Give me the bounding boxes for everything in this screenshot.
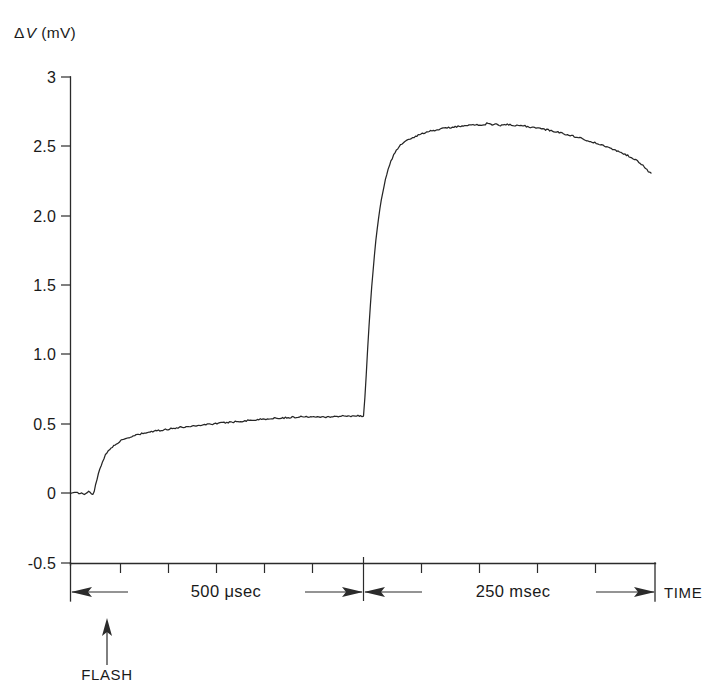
y-axis-label-units: (mV) (41, 24, 76, 41)
y-tick-label-0: 3 (47, 69, 56, 86)
y-tick-label-5: 0.5 (33, 416, 56, 433)
span-label-slow: 250 msec (476, 582, 551, 600)
y-tick-label-6: 0 (47, 485, 56, 502)
y-tick-label-4: 1.0 (33, 346, 56, 363)
trace-fast-phase (71, 415, 364, 494)
y-tick-label-3: 1.5 (33, 277, 56, 294)
figure-container: ΔV(mV) 3 2.5 2.0 1.5 1.0 0.5 0 -0.5 (0, 0, 721, 685)
y-tick-label-1: 2.5 (33, 138, 56, 155)
y-axis-tick-labels: 3 2.5 2.0 1.5 1.0 0.5 0 -0.5 (28, 69, 56, 572)
y-axis-label-delta: Δ (14, 24, 25, 41)
span-label-fast: 500 μsec (191, 582, 262, 600)
y-tick-label-7: -0.5 (28, 555, 56, 572)
x-axis-ticks-slow (422, 563, 596, 573)
y-axis-label: ΔV(mV) (14, 24, 76, 41)
flash-marker (102, 618, 112, 665)
x-axis-title: TIME (664, 584, 702, 601)
y-axis-ticks (61, 77, 71, 563)
trace-slow-phase (364, 123, 652, 416)
y-tick-label-2: 2.0 (33, 208, 56, 225)
chart-svg: ΔV(mV) 3 2.5 2.0 1.5 1.0 0.5 0 -0.5 (0, 0, 721, 685)
y-axis-label-symbol: V (26, 24, 38, 41)
flash-label: FLASH (81, 666, 132, 683)
x-axis-ticks-fast (121, 563, 313, 573)
